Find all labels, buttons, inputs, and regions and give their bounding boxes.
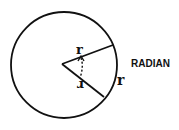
- radian-diagram: r r r RADIAN: [0, 0, 179, 130]
- angle-arc: [80, 58, 82, 78]
- diagram-title: RADIAN: [131, 58, 170, 69]
- radius-label-lower: r: [77, 78, 84, 93]
- arc-label: r: [117, 72, 125, 88]
- radius-line-upper: [62, 45, 113, 64]
- radius-label-upper: r: [76, 42, 83, 57]
